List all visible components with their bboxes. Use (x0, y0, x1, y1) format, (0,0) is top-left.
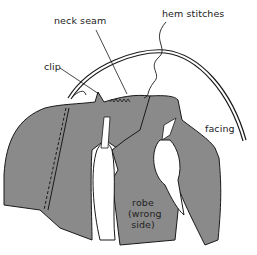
label-clip: clip (44, 61, 61, 72)
label-robe: robe (wrong side) (128, 197, 158, 230)
label-robe-line1: robe (132, 197, 154, 208)
neck-seam-leader (96, 30, 127, 94)
label-robe-line3: side) (131, 219, 155, 230)
label-robe-line2: (wrong (128, 208, 162, 219)
label-neck-seam: neck seam (54, 15, 106, 26)
label-hem-stitches: hem stitches (162, 8, 224, 19)
hem-stitches-thread (144, 22, 166, 98)
label-facing: facing (205, 123, 235, 134)
